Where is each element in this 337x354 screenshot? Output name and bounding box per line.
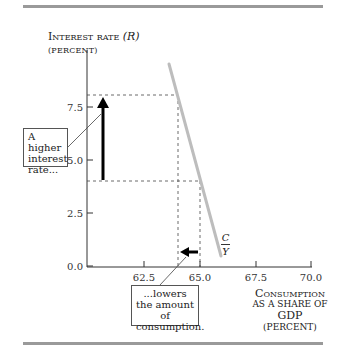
x-axis-label: Consumption AS A SHARE OF GDP (PERCENT) xyxy=(250,288,330,333)
y-tick-label: 2.5 xyxy=(67,208,83,219)
curve-label: C Y xyxy=(221,232,230,257)
y-tick-label: 5.0 xyxy=(67,155,83,166)
curve-label-denominator: Y xyxy=(222,246,229,257)
x-ticks: 62.5 65.0 67.5 70.0 xyxy=(133,261,322,283)
x-axis-unit: (PERCENT) xyxy=(263,322,317,332)
curve-label-numerator: C xyxy=(222,232,230,243)
x-axis-gdp: GDP xyxy=(277,309,302,322)
y-tick-label: 0.0 xyxy=(67,261,83,272)
callout-lowers-consumption: ...lowers the amount of consumption. xyxy=(131,285,199,326)
upper-leader-line xyxy=(68,114,101,147)
x-tick-label: 70.0 xyxy=(300,272,322,283)
x-tick-label: 65.0 xyxy=(189,272,211,283)
consumption-curve xyxy=(169,64,221,256)
left-arrow-icon xyxy=(180,247,198,257)
bottom-rule xyxy=(23,342,323,345)
y-tick-label: 7.5 xyxy=(67,102,83,113)
up-arrow-icon xyxy=(97,97,109,180)
lower-leader-line xyxy=(160,257,186,285)
y-ticks: 0.0 2.5 5.0 7.5 xyxy=(67,102,93,272)
x-tick-label: 67.5 xyxy=(245,272,267,283)
x-axis-title: Consumption xyxy=(250,288,330,299)
callout-higher-interest-rate: A higher interest rate... xyxy=(23,128,68,167)
x-tick-label: 62.5 xyxy=(133,272,155,283)
